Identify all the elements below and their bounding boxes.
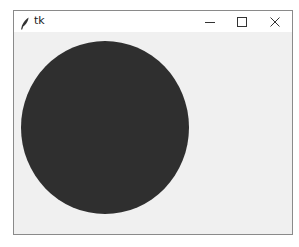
title-bar[interactable]: tk bbox=[14, 11, 292, 32]
close-button[interactable] bbox=[259, 11, 291, 32]
client-area bbox=[14, 32, 292, 234]
tk-feather-icon bbox=[20, 15, 30, 28]
canvas[interactable] bbox=[14, 32, 292, 234]
minimize-button[interactable] bbox=[194, 11, 226, 32]
tk-window: tk bbox=[13, 10, 293, 235]
filled-circle bbox=[21, 41, 189, 214]
close-icon bbox=[270, 12, 280, 31]
maximize-icon bbox=[237, 12, 247, 31]
maximize-button[interactable] bbox=[226, 11, 258, 32]
window-title: tk bbox=[34, 14, 45, 28]
minimize-icon bbox=[205, 12, 215, 31]
